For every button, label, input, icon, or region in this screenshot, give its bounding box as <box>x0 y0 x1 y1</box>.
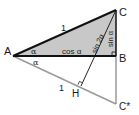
label-point-cstar: C* <box>119 101 130 112</box>
label-angle-bottom: α <box>33 58 39 67</box>
label-hyp-top: 1 <box>61 23 66 33</box>
label-point-c: C <box>119 6 127 18</box>
label-angle-top: α <box>31 47 37 56</box>
label-hyp-bottom: 1 <box>59 83 64 93</box>
label-point-b: B <box>119 52 126 64</box>
label-sin-alpha: sin α <box>106 30 115 47</box>
segment-a-cstar <box>13 56 116 104</box>
label-point-h: H <box>72 88 79 99</box>
label-cos-alpha: cos α <box>62 47 82 56</box>
label-point-a: A <box>4 45 12 57</box>
trig-diagram: A C B C* H 1 1 α α cos α sin α sin 2α <box>0 0 139 115</box>
